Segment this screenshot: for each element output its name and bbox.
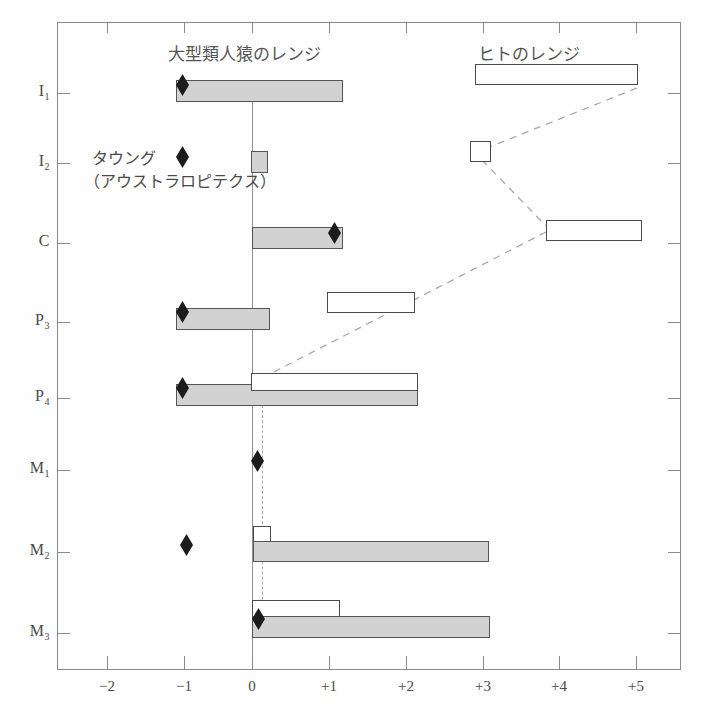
xtick-label-1: −1 bbox=[154, 678, 214, 695]
ape-range-bar-i1 bbox=[176, 80, 343, 102]
ytick-right-c bbox=[668, 243, 681, 244]
human-range-bar-p4 bbox=[251, 373, 418, 391]
human-range-bar-c bbox=[546, 220, 642, 241]
ytick-right-i1 bbox=[668, 93, 681, 94]
ape-range-bar-m2 bbox=[253, 541, 489, 562]
ytick-m3 bbox=[57, 633, 70, 634]
xtick-top-+5 bbox=[636, 22, 637, 33]
ytick-right-m1 bbox=[668, 470, 681, 471]
ytick-c bbox=[57, 243, 70, 244]
legend-label-line1: タウング bbox=[92, 145, 156, 169]
ytick-right-p3 bbox=[668, 322, 681, 323]
xtick-+3 bbox=[483, 656, 484, 670]
ytick-right-m3 bbox=[668, 633, 681, 634]
ape-range-bar-m3 bbox=[252, 616, 490, 638]
xtick-top-+3 bbox=[483, 22, 484, 33]
xtick-top-+2 bbox=[406, 22, 407, 33]
xtick-label-0: −2 bbox=[77, 678, 137, 695]
row-label-c: C bbox=[6, 232, 50, 250]
human-range-bar-i1 bbox=[475, 64, 638, 85]
ytick-right-i2 bbox=[668, 163, 681, 164]
human-range-bar-i2 bbox=[470, 141, 491, 162]
xtick-label-5: +3 bbox=[453, 678, 513, 695]
xtick-top--1 bbox=[184, 22, 185, 33]
xtick-+1 bbox=[329, 656, 330, 670]
row-label-p3: P3 bbox=[6, 311, 50, 331]
ytick-m2 bbox=[57, 552, 70, 553]
ytick-i1 bbox=[57, 93, 70, 94]
xtick-label-3: +1 bbox=[299, 678, 359, 695]
xtick--1 bbox=[184, 656, 185, 670]
xtick-+2 bbox=[406, 656, 407, 670]
row-label-m3: M3 bbox=[6, 622, 50, 642]
xtick-label-2: 0 bbox=[222, 678, 282, 695]
xtick-+5 bbox=[636, 656, 637, 670]
xtick-0 bbox=[252, 656, 253, 670]
xtick-top-+4 bbox=[559, 22, 560, 33]
ytick-p4 bbox=[57, 398, 70, 399]
xtick-+4 bbox=[559, 656, 560, 670]
row-label-p4: P4 bbox=[6, 387, 50, 407]
ape-range-bar-p3 bbox=[176, 308, 270, 330]
xtick-label-4: +2 bbox=[376, 678, 436, 695]
ytick-right-p4 bbox=[668, 398, 681, 399]
xtick-top-0 bbox=[252, 22, 253, 33]
xtick-label-7: +5 bbox=[606, 678, 666, 695]
legend-label-line2: （アウストラロピテクス） bbox=[84, 168, 276, 192]
row-label-m1: M1 bbox=[6, 459, 50, 479]
xtick-label-6: +4 bbox=[529, 678, 589, 695]
xtick-top-+1 bbox=[329, 22, 330, 33]
row-label-i2: I2 bbox=[6, 152, 50, 172]
row-label-i1: I1 bbox=[6, 82, 50, 102]
row-label-m2: M2 bbox=[6, 541, 50, 561]
xtick--2 bbox=[107, 656, 108, 670]
plot-frame bbox=[57, 22, 681, 670]
ape-range-bar-c bbox=[252, 227, 343, 249]
human-range-bar-p3 bbox=[327, 292, 415, 313]
chart-root: 大型類人猿のレンジ ヒトのレンジ I1 I2 C P3 P4 M1 M2 M3 bbox=[0, 0, 701, 712]
ytick-p3 bbox=[57, 322, 70, 323]
ytick-right-m2 bbox=[668, 552, 681, 553]
xtick-top--2 bbox=[107, 22, 108, 33]
ytick-i2 bbox=[57, 163, 70, 164]
ytick-m1 bbox=[57, 470, 70, 471]
